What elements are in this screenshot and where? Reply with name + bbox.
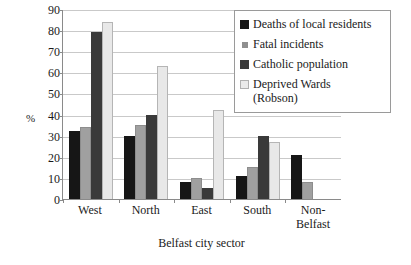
bar	[291, 155, 302, 199]
legend-item[interactable]: Deaths of local residents	[240, 17, 386, 31]
bar	[302, 182, 313, 199]
bar	[124, 136, 135, 199]
bar	[80, 127, 91, 199]
legend-swatch-icon	[240, 20, 249, 29]
x-tick-label: Non- Belfast	[285, 203, 341, 231]
bar-group	[174, 10, 230, 199]
bar	[191, 178, 202, 199]
bar	[269, 142, 280, 199]
legend-label: Fatal incidents	[253, 37, 323, 51]
legend-swatch-icon	[242, 42, 248, 48]
bar	[180, 182, 191, 199]
bar	[247, 167, 258, 199]
bar-group	[63, 10, 119, 199]
legend-swatch-icon	[240, 80, 249, 89]
x-axis-title: Belfast city sector	[62, 236, 341, 251]
x-axis-tick-labels: WestNorthEastSouthNon- Belfast	[62, 203, 341, 231]
bar	[213, 110, 224, 199]
y-axis-tick-labels: 0102030405060708090	[34, 10, 60, 200]
bar	[91, 32, 102, 199]
x-tick-label: North	[118, 203, 174, 231]
legend-label: Deprived Wards (Robson)	[253, 77, 331, 105]
legend-item[interactable]: Deprived Wards (Robson)	[240, 77, 386, 105]
bar	[102, 22, 113, 199]
bar	[258, 136, 269, 199]
x-tick-label: West	[62, 203, 118, 231]
bar	[202, 188, 213, 199]
bar	[236, 176, 247, 199]
x-tick-label: South	[229, 203, 285, 231]
legend-label: Deaths of local residents	[253, 17, 371, 31]
bar-group	[119, 10, 175, 199]
bar	[157, 66, 168, 199]
legend-item[interactable]: Fatal incidents	[240, 37, 386, 51]
chart-legend: Deaths of local residentsFatal incidents…	[234, 10, 391, 113]
x-tick-label: East	[174, 203, 230, 231]
legend-item[interactable]: Catholic population	[240, 57, 386, 71]
bar	[146, 115, 157, 199]
legend-label: Catholic population	[253, 57, 348, 71]
bar	[69, 131, 80, 199]
legend-swatch-icon	[240, 60, 249, 69]
bar-chart: % 0102030405060708090 WestNorthEastSouth…	[0, 0, 411, 265]
bar	[135, 125, 146, 199]
